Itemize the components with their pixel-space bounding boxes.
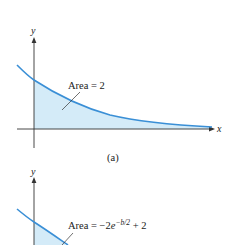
panel-caption: (a) [107,152,119,164]
shaded-area [34,80,212,129]
area-annotation-exponent: −b/2 [115,218,130,227]
area-annotation: Area = −2e−b/2 + 2 [68,218,147,231]
panel-b: y Area = −2e−b/2 + 2 [17,166,147,245]
y-axis-label: y [30,25,36,36]
area-annotation-suffix: + 2 [130,220,146,231]
area-annotation: Area = 2 [68,80,105,91]
y-axis-label: y [30,166,36,177]
panel-a: y x Area = 2 (a) [17,25,222,164]
x-axis-label: x [216,123,222,134]
area-annotation-prefix: Area = −2 [68,220,111,231]
annotation-leader [62,233,73,245]
figure: y x Area = 2 (a) y Area = −2e−b/2 + 2 [0,0,233,245]
y-axis-arrow-icon [32,177,37,183]
y-axis-arrow-icon [32,37,37,43]
